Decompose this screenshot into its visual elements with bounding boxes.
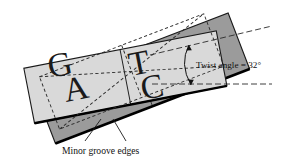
base-pair-twist-figure: G A T C Twist angle = 32° Minor groove e… bbox=[0, 0, 284, 161]
minor-groove-caption: Minor groove edges bbox=[62, 145, 140, 156]
twist-angle-label: Twist angle = 32° bbox=[196, 60, 261, 70]
